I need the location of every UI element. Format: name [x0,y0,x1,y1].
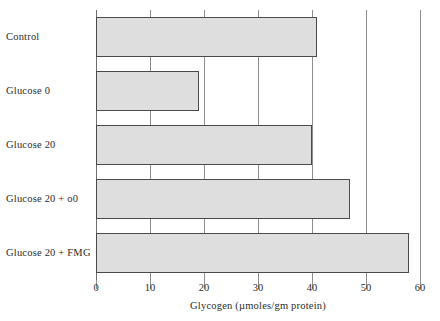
category-axis-labels: Control Glucose 0 Glucose 20 Glucose 20 … [0,10,92,280]
gridline-60 [420,10,421,280]
x-tick-label-30: 30 [253,282,264,293]
bar-0 [96,17,317,57]
x-axis-title: Glycogen (µmoles/gm protein) [96,300,420,311]
x-tick-label-40: 40 [307,282,318,293]
x-tick-label-10: 10 [145,282,156,293]
x-axis-tick-labels: 0102030405060 [0,282,440,298]
bar-2 [96,125,312,165]
bar-1 [96,71,199,111]
category-label-glucose-20-fmg: Glucose 20 + FMG [6,247,92,259]
bar-3 [96,179,350,219]
category-label-control: Control [6,31,92,43]
x-tick-label-20: 20 [199,282,210,293]
bar-chart: Control Glucose 0 Glucose 20 Glucose 20 … [0,0,440,321]
x-tick-label-0: 0 [93,282,98,293]
category-label-glucose-20: Glucose 20 [6,139,92,151]
category-label-glucose-20-o0: Glucose 20 + o0 [6,193,92,205]
x-tick-label-60: 60 [415,282,426,293]
category-label-glucose-0: Glucose 0 [6,85,92,97]
bar-4 [96,233,409,273]
x-tick-label-50: 50 [361,282,372,293]
plot-area [96,10,420,280]
